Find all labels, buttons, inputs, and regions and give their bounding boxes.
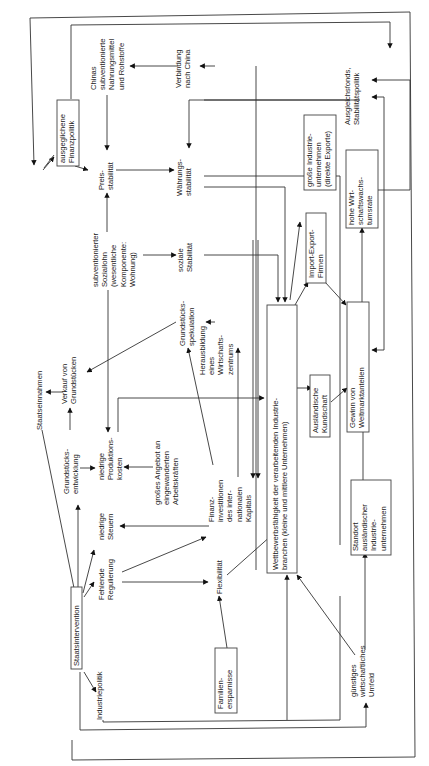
label-grundstuecksentwicklung: Grundstücks-entwicklung — [62, 448, 80, 494]
connector-staatseinnahmen-finanzpolitik — [43, 157, 54, 170]
label-line: Finanzpolitik — [67, 121, 76, 163]
label-line: tumsrate — [365, 195, 374, 225]
connector-import-gewinn — [325, 282, 346, 305]
label-line: Fehlende — [97, 568, 106, 600]
label-line: Weltmarktanteilen — [357, 367, 366, 428]
label-line: Wirtschafts- — [216, 334, 225, 375]
label-line: entwicklung — [71, 454, 80, 494]
connector-produktion-wettbewerb — [118, 398, 264, 432]
label-line: Staatseinnahmen — [35, 371, 44, 430]
connector-regulierung-finanz — [122, 537, 206, 572]
connector-intervention-steuern — [83, 550, 94, 593]
label-line: Stabilitätspolitik — [352, 72, 361, 125]
label-industriepolitik: Industriepolitik — [95, 671, 104, 720]
label-line: des inter- — [225, 490, 234, 522]
label-line: Arbeitskräften — [171, 458, 180, 505]
label-line: Ausländische — [311, 388, 320, 433]
label-herausbildung: HerausbildungeinesWirtschafts-zentrums — [198, 326, 235, 375]
label-line: Stabilität — [185, 242, 194, 272]
label-line: große Industrie- — [305, 133, 314, 187]
label-line: Wettbewerbsfähigkeit der verarbeitenden … — [271, 397, 280, 570]
label-line: Währungs- — [175, 158, 184, 196]
label-line: Verbindung — [174, 50, 183, 88]
label-line: Herausbildung — [198, 326, 207, 375]
label-soziale-stabilitaet: sozialeStabilität — [176, 242, 194, 272]
label-preisstabilitaet: Preis-stabilität — [97, 161, 115, 190]
connector-waehrung-wettbewerb — [204, 187, 285, 302]
label-line: investitionen — [216, 480, 225, 522]
label-niedrige-steuern: niedrigeSteuern — [97, 513, 115, 540]
label-niedrige-produktionskosten: niedrigeProduktions-kosten — [97, 437, 124, 480]
label-line: und Rohstoffe — [117, 43, 126, 90]
label-line: stabilität — [106, 161, 115, 190]
label-line: Firmen — [316, 254, 325, 278]
label-line: kosten — [115, 458, 124, 480]
label-line: Gewinn von — [348, 388, 357, 428]
label-line: Grundstücks- — [178, 300, 187, 346]
label-line: Produktions- — [106, 437, 115, 480]
connector-wettbewerb-import — [295, 282, 308, 305]
label-line: Familien- — [216, 677, 225, 709]
label-line: Import-Export- — [307, 229, 316, 278]
label-line: subventionierter — [91, 232, 100, 287]
label-line: Verkauf von — [60, 364, 69, 404]
label-line: nationalen — [235, 487, 244, 522]
label-line: niedrige — [97, 513, 106, 540]
label-waehrungsstabilitaet: Währungs-stabilität — [175, 158, 193, 196]
label-ausgleichsfonds: Ausgleichsfonds,Stabilitätspolitik — [343, 68, 361, 125]
label-line: soziale — [176, 248, 185, 272]
label-line: großes Angebot an — [153, 441, 162, 505]
connector-sozial-wettbewerb — [204, 255, 278, 302]
connector-umfeld-wettbewerb — [297, 575, 355, 655]
label-line: nach China — [183, 49, 192, 88]
label-line: ausgeglichene — [58, 114, 67, 163]
label-line: wirtschaftliches — [358, 645, 367, 698]
label-line: hohe Wirt- — [347, 190, 356, 225]
label-line: Grundstücken — [69, 357, 78, 404]
label-line: ersparnisse — [225, 670, 234, 709]
label-line: Nahrungsmittel — [107, 39, 116, 90]
label-line: Chinas — [89, 66, 98, 90]
label-line: Preis- — [97, 170, 106, 190]
label-line: Wohnung) — [128, 252, 137, 287]
connector-staatseinnahmen-finanzpolitik-line — [44, 155, 54, 168]
label-line: Finanz- — [207, 496, 216, 522]
label-guenstiges-umfeld: günstigeswirtschaftlichesUmfeld — [349, 645, 376, 698]
label-grosses-angebot: großes Angebot aneingewandertenArbeitskr… — [153, 441, 180, 505]
connector-finanzpolitik-preis — [75, 166, 88, 170]
label-verkauf-grundstuecke: Verkauf vonGrundstücken — [60, 357, 78, 404]
label-line: Kapitals — [244, 495, 253, 522]
label-staatsintervention: Staatsintervention — [72, 605, 81, 666]
label-line: Ausgleichsfonds, — [343, 68, 352, 125]
label-line: eines — [207, 357, 216, 375]
label-staatseinnahmen: Staatseinnahmen — [35, 371, 44, 430]
label-line: Umfeld — [367, 673, 376, 697]
label-line: niedrige — [97, 453, 106, 480]
label-line: Staatsintervention — [72, 605, 81, 666]
label-chinas-subventioniert: ChinassubventionierteNahrungsmittelund R… — [89, 38, 126, 90]
boxes — [57, 100, 391, 713]
label-verbindung-china: Verbindungnach China — [174, 49, 192, 88]
connector-familien-flexibilitaet — [219, 596, 227, 648]
connector-flexibilitaet-wettbewerb — [227, 535, 272, 575]
label-line: zentrums — [226, 344, 235, 375]
label-line: unternehmen — [379, 506, 388, 551]
label-ausgeglichene-finanzpolitik: ausgeglicheneFinanzpolitik — [58, 114, 76, 163]
label-fehlende-regulierung: FehlendeRegulierung — [97, 559, 115, 600]
connector-wettbewerb-grossindustrie — [290, 222, 300, 300]
label-line: Regulierung — [106, 559, 115, 600]
connector-spekulation-verkauf — [87, 322, 176, 372]
label-line: (direkte Exporte) — [323, 130, 332, 187]
label-line: günstiges — [349, 664, 358, 697]
label-line: spekulation — [187, 308, 196, 346]
label-line: Standort — [351, 521, 360, 551]
label-line: subventionierte — [98, 38, 107, 90]
label-line: unternehmen — [314, 142, 323, 187]
label-wettbewerbsfaehigkeit: Wettbewerbsfähigkeit der verarbeitenden … — [271, 397, 289, 570]
label-line: Soziallohn — [100, 252, 109, 287]
label-line: branchen (kleine und mittlere Unternehme… — [280, 421, 289, 570]
cause-effect-diagram: StaatsinterventionIndustriepolitikFehlen… — [0, 0, 429, 766]
label-grundstuecksspekulation: Grundstücks-spekulation — [178, 300, 196, 346]
label-line: eingewanderten — [162, 451, 171, 505]
label-line: Komponente: — [119, 242, 128, 287]
